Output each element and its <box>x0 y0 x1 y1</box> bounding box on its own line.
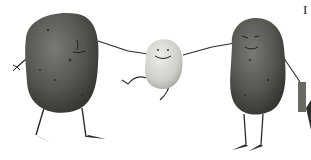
partial-figure <box>306 100 311 130</box>
right-potato <box>212 18 306 151</box>
potato-illustration: I <box>0 0 311 160</box>
held-object <box>298 82 306 112</box>
left-potato <box>13 13 128 144</box>
illustration-canvas <box>0 0 311 160</box>
edge-glyph: I <box>303 3 307 16</box>
middle-potato <box>122 39 212 100</box>
